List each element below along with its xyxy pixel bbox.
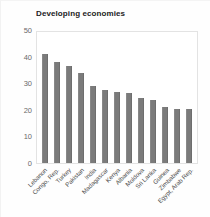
bar[interactable] (162, 107, 168, 163)
bar-slot (183, 32, 195, 163)
bar-slot (135, 32, 147, 163)
y-axis-tick-label: 50 (24, 27, 32, 35)
bar[interactable] (102, 90, 108, 163)
bar-slot (51, 32, 63, 163)
bar[interactable] (174, 109, 180, 163)
x-axis-slot: Egypt, Arab Rep. (184, 164, 196, 217)
bar-series (37, 32, 197, 163)
plot-area (36, 31, 198, 164)
bar-slot (63, 32, 75, 163)
bar[interactable] (78, 73, 84, 163)
bar[interactable] (54, 62, 60, 163)
bar[interactable] (138, 98, 144, 163)
x-axis-slot: Turkey (62, 164, 74, 217)
bar-slot (75, 32, 87, 163)
bar[interactable] (90, 86, 96, 163)
bar-slot (39, 32, 51, 163)
x-axis: LebanonCongo, Rep.TurkeyPakistanIndiaMad… (36, 164, 198, 217)
y-axis-tick-label: 30 (24, 80, 32, 88)
bar[interactable] (42, 54, 48, 163)
y-axis-tick-label: 10 (24, 134, 32, 142)
bar[interactable] (66, 66, 72, 163)
y-axis-tick-label: 40 (24, 54, 32, 62)
y-axis-tick-label: 20 (24, 107, 32, 115)
chart-figure: Developing economies 01020304050 Lebanon… (0, 0, 210, 217)
bar[interactable] (186, 109, 192, 163)
bar-slot (87, 32, 99, 163)
bar-slot (111, 32, 123, 163)
bar[interactable] (114, 92, 120, 163)
y-axis: 01020304050 (8, 31, 32, 164)
bar-slot (99, 32, 111, 163)
y-axis-tick-label: 0 (28, 160, 32, 168)
bar-slot (159, 32, 171, 163)
chart-title: Developing economies (36, 9, 125, 18)
bar-slot (123, 32, 135, 163)
bar[interactable] (126, 93, 132, 163)
bar-slot (147, 32, 159, 163)
bar-slot (171, 32, 183, 163)
bar[interactable] (150, 100, 156, 163)
